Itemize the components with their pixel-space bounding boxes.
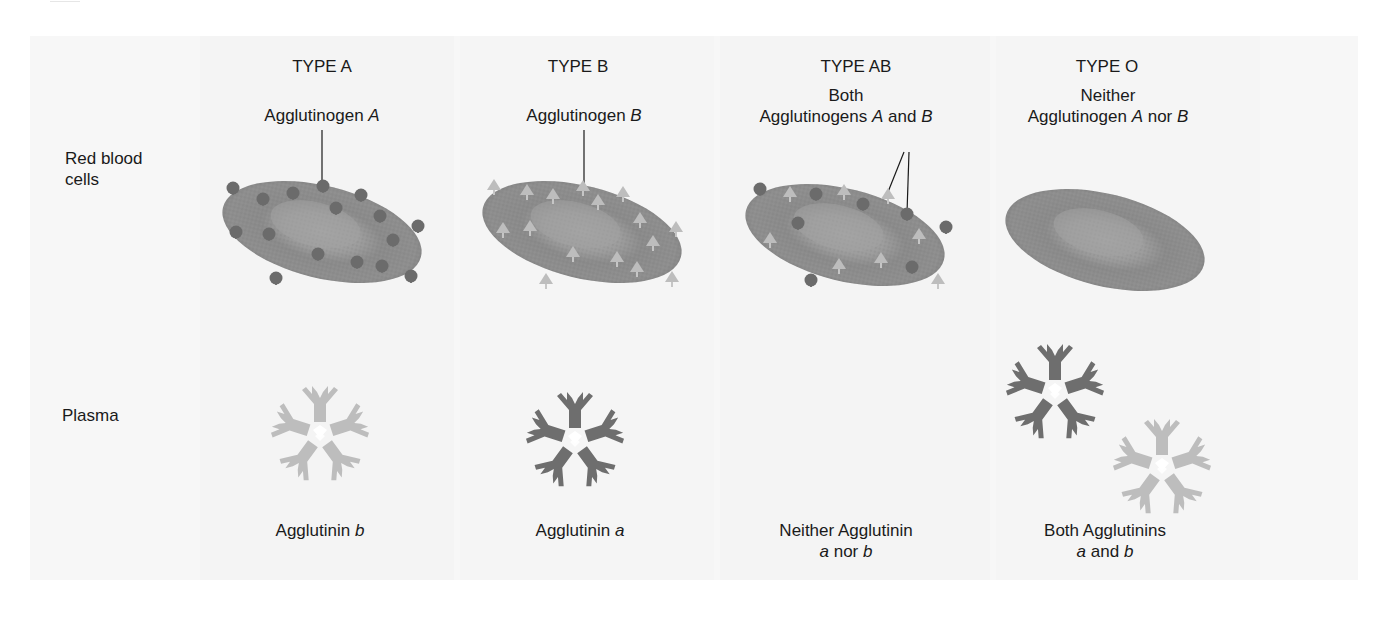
agglutinin-a-type-b bbox=[524, 392, 626, 489]
agglutinin-a-type-o bbox=[1004, 344, 1106, 441]
leader-line-a bbox=[907, 152, 909, 213]
rbc-type-ab bbox=[735, 152, 955, 304]
rbc-type-b bbox=[472, 130, 692, 301]
agglutinin-b-type-o bbox=[1111, 419, 1213, 516]
leader-line-b bbox=[888, 152, 904, 192]
rbc-type-a bbox=[212, 130, 432, 301]
rbc-type-o bbox=[995, 171, 1215, 310]
agglutinin-b-type-a bbox=[269, 386, 371, 483]
diagram-artwork bbox=[0, 0, 1391, 633]
